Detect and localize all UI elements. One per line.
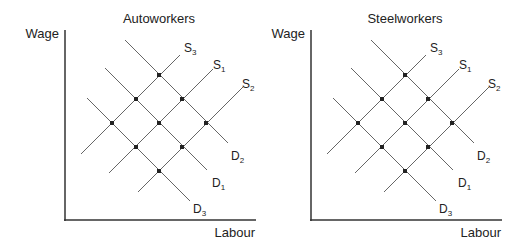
demand-curves	[87, 40, 228, 201]
panel-steelworkers: Steelworkers Wage Labour S3 S1 S2 D2 D1	[272, 11, 502, 240]
panel-title: Autoworkers	[123, 11, 196, 26]
svg-text:D2: D2	[231, 149, 245, 165]
svg-text:S2: S2	[242, 77, 255, 93]
x-axis-label: Labour	[461, 225, 502, 240]
y-axis-label: Wage	[272, 26, 305, 41]
curve-labels: S3 S1 S2 D2 D1 D3	[184, 41, 255, 218]
demand-curves	[333, 40, 474, 201]
panel-title: Steelworkers	[367, 11, 443, 26]
svg-text:S1: S1	[213, 58, 226, 74]
y-axis-label: Wage	[26, 26, 59, 41]
supply-curves	[81, 55, 243, 192]
svg-text:S2: S2	[488, 77, 501, 93]
svg-text:D1: D1	[212, 176, 226, 192]
svg-text:D3: D3	[439, 202, 453, 218]
svg-text:S3: S3	[430, 41, 443, 57]
diagram-canvas: Autoworkers Wage Labour S3 S1 S2 D2 D1	[0, 0, 528, 248]
curve-labels: S3 S1 S2 D2 D1 D3	[430, 41, 501, 218]
panel-autoworkers: Autoworkers Wage Labour S3 S1 S2 D2 D1	[26, 11, 256, 240]
svg-text:D3: D3	[193, 202, 207, 218]
svg-text:S1: S1	[459, 58, 472, 74]
svg-text:S3: S3	[184, 41, 197, 57]
supply-curves	[327, 55, 489, 192]
svg-text:D1: D1	[458, 176, 472, 192]
x-axis-label: Labour	[215, 225, 256, 240]
svg-text:D2: D2	[477, 149, 491, 165]
